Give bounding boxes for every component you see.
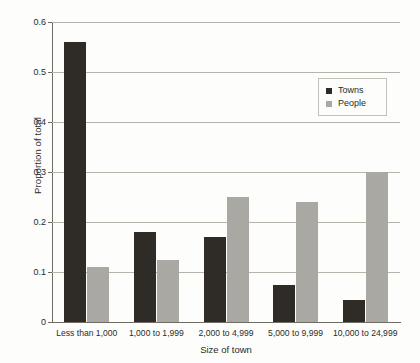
- y-axis-title: Proportion of total: [32, 76, 43, 236]
- x-axis-tick-label: Less than 1,000: [56, 328, 117, 338]
- bar-towns: [204, 237, 226, 322]
- legend-item-people: People: [326, 97, 380, 110]
- bar-towns: [64, 42, 86, 322]
- bar-people: [366, 172, 388, 322]
- legend-label-people: People: [338, 97, 366, 110]
- bar-chart: Proportion of total 00.10.20.30.40.50.6 …: [0, 0, 420, 363]
- legend: Towns People: [318, 78, 387, 116]
- y-axis-tick-mark: [48, 272, 52, 273]
- gridline: [52, 172, 400, 173]
- legend-label-towns: Towns: [338, 84, 364, 97]
- legend-item-towns: Towns: [326, 84, 380, 97]
- legend-swatch-icon-people: [326, 101, 332, 107]
- gridline: [52, 122, 400, 123]
- y-axis-tick-label: 0.6: [18, 17, 46, 27]
- y-axis-tick-label: 0.2: [18, 217, 46, 227]
- bar-people: [227, 197, 249, 322]
- x-axis-tick-label: 2,000 to 4,999: [199, 328, 254, 338]
- y-axis-tick-label: 0.1: [18, 267, 46, 277]
- x-axis-tick-label: 1,000 to 1,999: [129, 328, 184, 338]
- bar-people: [157, 260, 179, 323]
- y-axis-tick-mark: [48, 122, 52, 123]
- legend-swatch-icon-towns: [326, 88, 332, 94]
- y-axis-tick-label: 0.3: [18, 167, 46, 177]
- bar-towns: [134, 232, 156, 322]
- y-axis-tick-label: 0.5: [18, 67, 46, 77]
- bar-towns: [273, 285, 295, 323]
- bar-towns: [343, 300, 365, 323]
- y-axis-tick-mark: [48, 72, 52, 73]
- y-axis-tick-label: 0: [18, 317, 46, 327]
- x-axis-tick-label: 5,000 to 9,999: [268, 328, 323, 338]
- bar-people: [87, 267, 109, 322]
- x-axis-tick-label: 10,000 to 24,999: [333, 328, 398, 338]
- x-axis-title: Size of town: [52, 344, 400, 355]
- y-axis-tick-mark: [48, 322, 52, 323]
- gridline: [52, 22, 400, 23]
- y-axis-tick-mark: [48, 172, 52, 173]
- y-axis-tick-mark: [48, 22, 52, 23]
- y-axis-tick-mark: [48, 222, 52, 223]
- gridline: [52, 72, 400, 73]
- bar-people: [296, 202, 318, 322]
- y-axis-tick-label: 0.4: [18, 117, 46, 127]
